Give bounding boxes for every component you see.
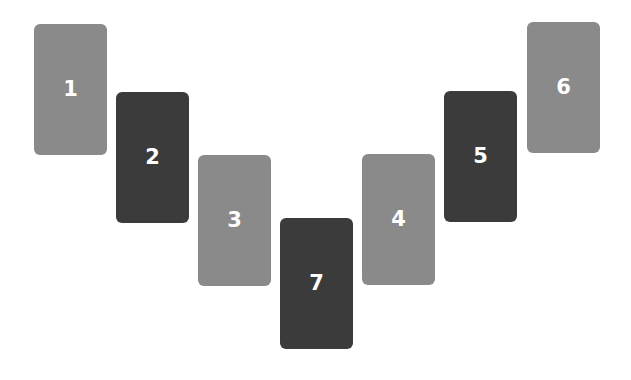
card-2: 2 (116, 92, 189, 223)
card-7: 7 (280, 218, 353, 349)
card-5: 5 (444, 91, 517, 222)
card-number: 2 (145, 147, 160, 168)
card-number: 7 (309, 273, 324, 294)
card-number: 4 (391, 209, 406, 230)
card-4: 4 (362, 154, 435, 285)
card-6: 6 (527, 22, 600, 153)
card-1: 1 (34, 24, 107, 155)
card-number: 6 (556, 77, 571, 98)
card-number: 5 (473, 146, 488, 167)
card-3: 3 (198, 155, 271, 286)
card-number: 1 (63, 79, 78, 100)
card-number: 3 (227, 210, 242, 231)
